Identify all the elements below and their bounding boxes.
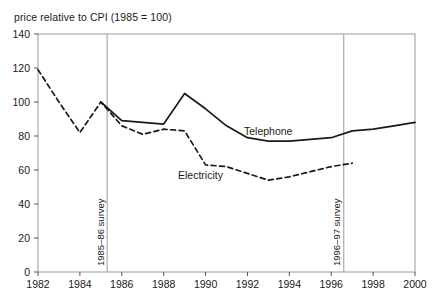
x-axis-tick-label: 1988 bbox=[152, 278, 176, 290]
survey-annotation-label: 1985–86 survey bbox=[95, 198, 106, 266]
x-axis-tick-label: 1996 bbox=[320, 278, 344, 290]
y-axis-tick-label: 100 bbox=[12, 96, 30, 108]
y-axis-tick-label: 80 bbox=[18, 130, 30, 142]
y-axis-tick-label: 20 bbox=[18, 232, 30, 244]
series-label-layer: TelephoneElectricity bbox=[178, 125, 293, 181]
y-axis-tick-label: 120 bbox=[12, 62, 30, 74]
x-axis-tick-label: 1998 bbox=[361, 278, 385, 290]
series-label-electricity: Electricity bbox=[178, 169, 224, 181]
series-line-electricity bbox=[38, 70, 352, 181]
x-axis-tick-label: 1990 bbox=[194, 278, 218, 290]
chart-container: price relative to CPI (1985 = 100) 02040… bbox=[0, 0, 440, 303]
y-axis-tick-label: 60 bbox=[18, 164, 30, 176]
chart-plot-svg: 0204060801001201401982198419861988199019… bbox=[0, 0, 440, 303]
y-axis-tick-label: 40 bbox=[18, 198, 30, 210]
y-axis-tick-label: 0 bbox=[24, 266, 30, 278]
annotation-layer: 1985–86 survey1996–97 survey bbox=[95, 34, 344, 272]
y-axis-tick-label: 140 bbox=[12, 28, 30, 40]
x-axis-tick-label: 1994 bbox=[278, 278, 302, 290]
series-label-telephone: Telephone bbox=[244, 125, 293, 137]
x-axis-tick-label: 1986 bbox=[110, 278, 134, 290]
series-layer bbox=[38, 70, 415, 181]
x-axis-tick-label: 1992 bbox=[236, 278, 260, 290]
x-axis-tick-label: 1982 bbox=[26, 278, 50, 290]
axes-layer: 0204060801001201401982198419861988199019… bbox=[12, 28, 426, 290]
x-axis-tick-label: 2000 bbox=[403, 278, 427, 290]
x-axis-tick-label: 1984 bbox=[68, 278, 92, 290]
survey-annotation-label: 1996–97 survey bbox=[331, 198, 342, 266]
